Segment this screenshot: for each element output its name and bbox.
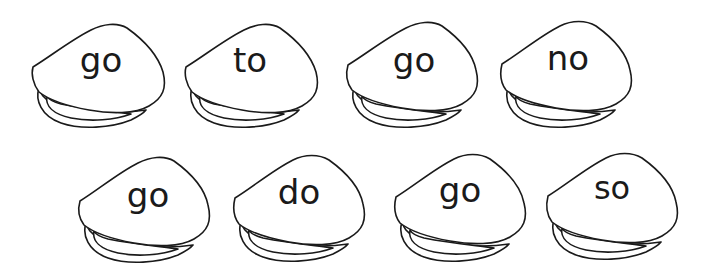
shell-word: so [542, 168, 682, 208]
clam-shell-8: so [548, 150, 688, 260]
clam-shell-7: go [396, 152, 536, 262]
clam-shell-1: go [31, 18, 171, 128]
shell-word: to [180, 40, 320, 80]
clam-shell-2: to [186, 18, 326, 128]
shell-word: no [498, 38, 638, 78]
shell-word: go [344, 40, 484, 80]
shell-word: go [78, 175, 218, 215]
shell-word: do [229, 172, 369, 212]
clam-shell-5: go [80, 153, 220, 263]
clam-shell-6: do [235, 152, 375, 262]
shell-word: go [31, 40, 171, 80]
clam-shell-3: go [348, 18, 488, 128]
clam-shell-4: no [502, 18, 642, 128]
shell-word: go [390, 170, 530, 210]
